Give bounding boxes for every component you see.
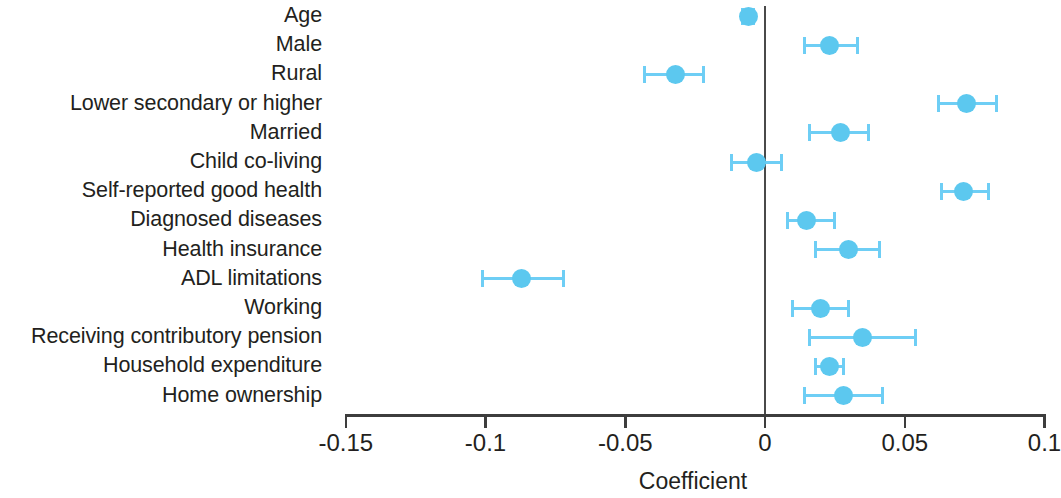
data-row[interactable]	[330, 294, 1056, 322]
coefficient-point-marker[interactable]	[820, 357, 839, 376]
category-label: Diagnosed diseases	[130, 209, 322, 231]
x-axis-tick	[1043, 414, 1046, 428]
ci-lower-cap	[814, 241, 817, 258]
category-label: Rural	[271, 63, 322, 85]
x-axis-tick	[624, 414, 627, 428]
ci-lower-cap	[940, 183, 943, 200]
coefficient-point-marker[interactable]	[834, 386, 853, 405]
coefficient-point-marker[interactable]	[512, 269, 531, 288]
ci-upper-cap	[847, 300, 850, 317]
x-axis-line	[346, 414, 1045, 417]
ci-lower-cap	[814, 358, 817, 375]
ci-upper-cap	[867, 124, 870, 141]
ci-upper-cap	[702, 66, 705, 83]
category-label: Working	[244, 297, 322, 319]
coefficient-point-marker[interactable]	[820, 36, 839, 55]
data-row[interactable]	[330, 352, 1056, 380]
ci-lower-cap	[791, 300, 794, 317]
x-axis-tick-label: 0	[758, 431, 771, 455]
ci-upper-cap	[842, 358, 845, 375]
x-axis-tick	[764, 414, 767, 428]
x-axis-tick-label: -0.05	[598, 431, 653, 455]
x-axis-tick-label: 0.1	[1028, 431, 1061, 455]
data-row[interactable]	[330, 236, 1056, 264]
x-axis-tick	[484, 414, 487, 428]
ci-upper-cap	[780, 154, 783, 171]
category-label: Lower secondary or higher	[70, 93, 322, 115]
ci-lower-cap	[643, 66, 646, 83]
category-label: Home ownership	[162, 385, 322, 407]
ci-lower-cap	[730, 154, 733, 171]
x-axis-title: Coefficient	[330, 470, 1056, 493]
data-row[interactable]	[330, 206, 1056, 234]
ci-upper-cap	[881, 387, 884, 404]
data-row[interactable]	[330, 177, 1056, 205]
x-axis-tick	[345, 414, 348, 428]
x-axis-tick	[904, 414, 907, 428]
data-row[interactable]	[330, 2, 1056, 30]
category-label: Married	[250, 122, 322, 144]
data-row[interactable]	[330, 382, 1056, 410]
coefficient-point-marker[interactable]	[666, 65, 685, 84]
category-label: Household expenditure	[103, 355, 322, 377]
data-row[interactable]	[330, 90, 1056, 118]
category-axis-labels: AgeMaleRuralLower secondary or higherMar…	[0, 0, 330, 414]
coefficient-point-marker[interactable]	[954, 182, 973, 201]
ci-upper-cap	[914, 329, 917, 346]
plot-area	[330, 0, 1056, 414]
x-axis: -0.15-0.1-0.0500.050.1 Coefficient	[330, 414, 1056, 498]
ci-upper-cap	[562, 270, 565, 287]
ci-lower-cap	[803, 37, 806, 54]
coefficient-point-marker[interactable]	[797, 211, 816, 230]
coefficient-point-marker[interactable]	[853, 328, 872, 347]
ci-lower-cap	[786, 212, 789, 229]
ci-upper-cap	[878, 241, 881, 258]
ci-lower-cap	[808, 329, 811, 346]
category-label: Health insurance	[162, 239, 322, 261]
coefficient-point-marker[interactable]	[839, 240, 858, 259]
coefficient-point-marker[interactable]	[739, 7, 758, 26]
data-row[interactable]	[330, 31, 1056, 59]
ci-lower-cap	[937, 95, 940, 112]
x-axis-tick-label: -0.1	[465, 431, 506, 455]
ci-lower-cap	[803, 387, 806, 404]
data-row[interactable]	[330, 265, 1056, 293]
category-label: ADL limitations	[181, 268, 322, 290]
ci-lower-cap	[481, 270, 484, 287]
coefficient-point-marker[interactable]	[747, 153, 766, 172]
coefficient-point-marker[interactable]	[811, 299, 830, 318]
category-label: Receiving contributory pension	[31, 326, 322, 348]
x-axis-tick-label: 0.05	[881, 431, 928, 455]
category-label: Self-reported good health	[82, 180, 322, 202]
category-label: Age	[284, 5, 322, 27]
category-label: Child co-living	[190, 151, 322, 173]
coefficient-point-marker[interactable]	[957, 94, 976, 113]
ci-upper-cap	[987, 183, 990, 200]
data-row[interactable]	[330, 323, 1056, 351]
ci-upper-cap	[995, 95, 998, 112]
x-axis-tick-label: -0.15	[318, 431, 373, 455]
data-row[interactable]	[330, 119, 1056, 147]
data-row[interactable]	[330, 148, 1056, 176]
data-row[interactable]	[330, 60, 1056, 88]
coefficient-point-marker[interactable]	[831, 123, 850, 142]
ci-upper-cap	[833, 212, 836, 229]
category-label: Male	[276, 34, 322, 56]
ci-upper-cap	[856, 37, 859, 54]
ci-lower-cap	[808, 124, 811, 141]
